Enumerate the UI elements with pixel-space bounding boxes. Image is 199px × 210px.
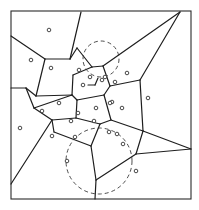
site-point	[47, 28, 51, 32]
site-point	[29, 58, 33, 62]
voronoi-edge	[96, 154, 136, 180]
site-point	[94, 106, 98, 110]
voronoi-edge	[140, 80, 143, 131]
voronoi-edge	[95, 180, 96, 199]
site-point	[103, 75, 107, 79]
voronoi-edge	[76, 100, 77, 118]
site-point	[125, 71, 129, 75]
voronoi-edge	[72, 95, 77, 100]
site-point	[40, 109, 44, 113]
voronoi-diagram	[0, 0, 199, 210]
site-point	[121, 142, 125, 146]
voronoi-edge	[143, 131, 191, 149]
voronoi-edge	[36, 95, 72, 96]
voronoi-edge	[140, 12, 180, 80]
voronoi-edge	[104, 86, 110, 95]
voronoi-edge	[72, 75, 73, 95]
voronoi-edge	[104, 95, 111, 120]
site-point	[49, 66, 53, 70]
voronoi-edge	[73, 67, 92, 75]
voronoi-edge	[91, 146, 96, 180]
site-point	[65, 159, 69, 163]
site-point	[73, 135, 77, 139]
site-point	[88, 75, 92, 79]
voronoi-edges	[11, 12, 191, 199]
voronoi-edge	[136, 131, 143, 154]
diagram-canvas	[0, 0, 199, 210]
voronoi-edge	[111, 120, 143, 131]
voronoi-edge	[52, 120, 54, 132]
voronoi-edge	[76, 118, 100, 124]
site-point	[108, 101, 112, 105]
site-point	[107, 130, 111, 134]
site-point	[113, 80, 117, 84]
voronoi-edge	[100, 120, 111, 124]
site-point	[81, 83, 85, 87]
site-point	[50, 134, 54, 138]
voronoi-edge	[92, 66, 103, 67]
site-point	[120, 106, 124, 110]
site-point	[77, 68, 81, 72]
site-point	[69, 119, 73, 123]
voronoi-edge	[77, 95, 104, 100]
voronoi-edge	[70, 12, 81, 59]
voronoi-edge	[36, 59, 45, 96]
voronoi-edge	[54, 132, 91, 146]
site-point	[92, 119, 96, 123]
voronoi-edge	[95, 78, 98, 85]
site-point	[115, 132, 119, 136]
voronoi-edge	[136, 149, 191, 154]
site-point	[146, 96, 150, 100]
site-point	[18, 126, 22, 130]
voronoi-edge	[11, 36, 45, 59]
site-point	[76, 111, 80, 115]
voronoi-edge	[91, 124, 100, 146]
site-point	[57, 101, 61, 105]
site-point	[100, 78, 104, 82]
voronoi-edge	[34, 95, 72, 108]
site-point	[134, 169, 138, 173]
voronoi-edge	[103, 12, 180, 66]
voronoi-edge	[11, 120, 52, 184]
